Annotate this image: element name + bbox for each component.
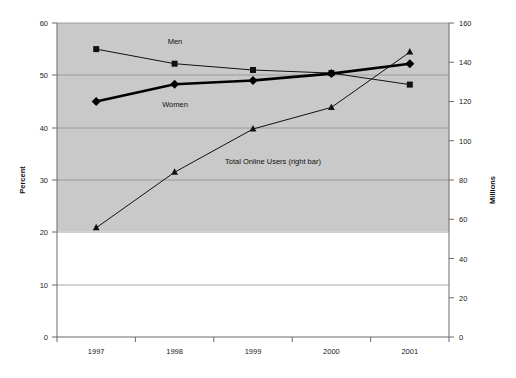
y-tick-left-30: 30 bbox=[40, 176, 48, 185]
marker-men-2001 bbox=[407, 82, 413, 88]
y-tick-right-0: 0 bbox=[459, 333, 463, 342]
y-axis-left-ticks bbox=[52, 23, 57, 337]
annotation-women: Women bbox=[162, 100, 188, 109]
y-tick-right-120: 120 bbox=[459, 97, 472, 106]
x-tick-1998: 1998 bbox=[166, 347, 183, 356]
x-tick-1999: 1999 bbox=[245, 347, 262, 356]
y-tick-left-20: 20 bbox=[40, 228, 48, 237]
x-tick-2000: 2000 bbox=[323, 347, 340, 356]
y-axis-right-title: Millions bbox=[488, 176, 497, 204]
y-tick-right-160: 160 bbox=[459, 19, 472, 28]
marker-men-1998 bbox=[172, 61, 178, 67]
y-tick-left-0: 0 bbox=[44, 333, 48, 342]
x-tick-1997: 1997 bbox=[88, 347, 105, 356]
plot-background-lower bbox=[57, 231, 449, 337]
y-tick-left-40: 40 bbox=[40, 124, 48, 133]
y-tick-right-40: 40 bbox=[459, 255, 467, 264]
y-axis-right-ticks bbox=[449, 23, 454, 337]
x-axis-ticks bbox=[57, 337, 449, 342]
x-tick-2001: 2001 bbox=[401, 347, 418, 356]
y-tick-left-60: 60 bbox=[40, 19, 48, 28]
annotation-total-online-users: Total Online Users (right bar) bbox=[225, 157, 321, 166]
y-tick-right-60: 60 bbox=[459, 215, 467, 224]
y-tick-right-140: 140 bbox=[459, 58, 472, 67]
y-tick-right-80: 80 bbox=[459, 176, 467, 185]
annotation-men: Men bbox=[168, 37, 183, 46]
y-tick-left-50: 50 bbox=[40, 71, 48, 80]
chart-container: 60 50 40 30 20 10 0 160 140 120 100 80 6… bbox=[0, 0, 516, 378]
y-tick-right-20: 20 bbox=[459, 294, 467, 303]
y-tick-right-100: 100 bbox=[459, 137, 472, 146]
marker-men-1999 bbox=[250, 67, 256, 73]
y-tick-left-10: 10 bbox=[40, 281, 48, 290]
line-chart: 60 50 40 30 20 10 0 160 140 120 100 80 6… bbox=[0, 0, 516, 378]
y-axis-left-title: Percent bbox=[18, 166, 27, 194]
marker-men-1997 bbox=[93, 46, 99, 52]
